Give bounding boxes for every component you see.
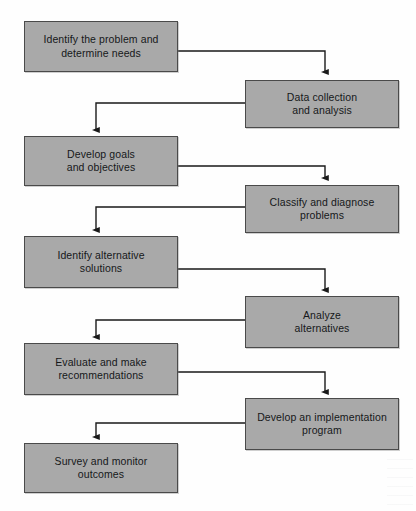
flow-node-analyze-alternatives[interactable]: Analyze alternatives bbox=[245, 296, 399, 348]
connector-arrow-c4 bbox=[96, 207, 245, 230]
connector-arrow-c7 bbox=[178, 372, 325, 392]
flow-node-identify-alternatives[interactable]: Identify alternative solutions bbox=[24, 236, 178, 288]
flow-node-evaluate-recommend[interactable]: Evaluate and make recommendations bbox=[24, 343, 178, 395]
flow-node-label: Data collection and analysis bbox=[287, 91, 357, 118]
flow-node-identify-problem[interactable]: Identify the problem and determine needs bbox=[24, 21, 178, 72]
flow-node-classify-diagnose[interactable]: Classify and diagnose problems bbox=[245, 185, 399, 233]
flow-node-develop-implementation[interactable]: Develop an implementation program bbox=[245, 398, 399, 450]
connector-arrow-c3 bbox=[178, 166, 325, 178]
flow-node-label: Analyze alternatives bbox=[295, 309, 350, 336]
flow-node-label: Develop an implementation program bbox=[257, 411, 387, 438]
connector-arrow-c1 bbox=[178, 51, 325, 72]
flow-node-label: Identify the problem and determine needs bbox=[43, 33, 158, 60]
flow-node-label: Classify and diagnose problems bbox=[270, 196, 375, 223]
flow-node-label: Evaluate and make recommendations bbox=[55, 356, 147, 383]
flow-node-label: Identify alternative solutions bbox=[57, 249, 144, 276]
flow-node-label: Survey and monitor outcomes bbox=[55, 455, 148, 482]
flow-node-label: Develop goals and objectives bbox=[67, 148, 136, 175]
flow-node-develop-goals[interactable]: Develop goals and objectives bbox=[24, 136, 178, 186]
connector-arrow-c8 bbox=[96, 423, 245, 437]
connector-arrow-c2 bbox=[96, 103, 245, 130]
flow-node-survey-monitor[interactable]: Survey and monitor outcomes bbox=[24, 443, 178, 493]
connector-arrow-c5 bbox=[178, 269, 325, 290]
flow-node-data-collection[interactable]: Data collection and analysis bbox=[245, 80, 399, 128]
connector-arrow-c6 bbox=[96, 320, 245, 337]
flowchart-canvas: Identify the problem and determine needs… bbox=[0, 0, 416, 511]
